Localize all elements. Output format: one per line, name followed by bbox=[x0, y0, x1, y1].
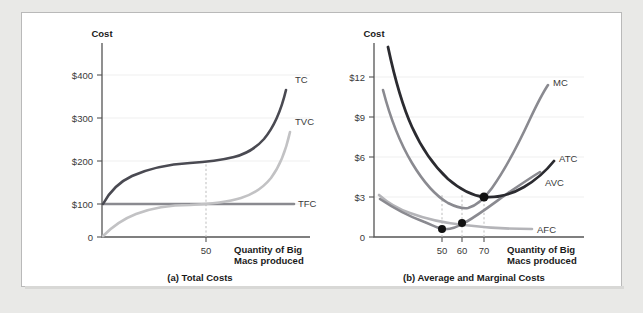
curve-label-afc: AFC bbox=[537, 224, 556, 235]
panel-average-marginal-costs: $12 $9 $6 $3 0 Cost 50 60 70 bbox=[322, 13, 623, 288]
panel-b-plot: $12 $9 $6 $3 0 Cost 50 60 70 bbox=[322, 13, 623, 288]
panel-b-ytick-6: $6 bbox=[354, 152, 365, 163]
panel-a-ytick-0: 0 bbox=[88, 232, 93, 243]
panel-b-caption: (b) Average and Marginal Costs bbox=[403, 272, 545, 283]
panel-b-ytick-12: $12 bbox=[349, 72, 365, 83]
curve-label-mc: MC bbox=[553, 77, 568, 88]
panel-a-xtick-50: 50 bbox=[201, 245, 212, 256]
panel-b-xtick-50: 50 bbox=[437, 245, 448, 256]
panel-b-xtick-70: 70 bbox=[479, 245, 490, 256]
panel-b-xtick-60: 60 bbox=[457, 245, 468, 256]
panel-a-plot: $400 $300 $200 $100 0 Cost 50 TC TVC TFC bbox=[22, 13, 322, 288]
curve-tc bbox=[103, 90, 286, 204]
panel-a-y-ticks bbox=[97, 75, 102, 237]
panel-a-axes bbox=[102, 43, 310, 237]
curve-label-tvc: TVC bbox=[295, 116, 314, 127]
curve-label-avc: AVC bbox=[545, 177, 564, 188]
panel-b-x-ticks bbox=[442, 237, 484, 242]
panel-a-gridlines bbox=[102, 75, 310, 204]
panel-total-costs: $400 $300 $200 $100 0 Cost 50 TC TVC TFC bbox=[22, 13, 322, 288]
panel-a-y-axis-title: Cost bbox=[91, 28, 113, 39]
panel-b-ytick-3: $3 bbox=[354, 192, 365, 203]
figure-frame: $400 $300 $200 $100 0 Cost 50 TC TVC TFC bbox=[21, 12, 622, 287]
panel-a-ytick-200: $200 bbox=[72, 156, 93, 167]
panel-b-ytick-9: $9 bbox=[354, 112, 365, 123]
panel-b-y-axis-title: Cost bbox=[363, 28, 385, 39]
curve-label-tc: TC bbox=[295, 74, 308, 85]
curve-tvc bbox=[103, 132, 290, 236]
panel-a-ytick-100: $100 bbox=[72, 199, 93, 210]
panel-a-ytick-400: $400 bbox=[72, 70, 93, 81]
panel-b-x-axis-name-line2: Macs produced bbox=[507, 255, 577, 266]
panel-b-ytick-0: 0 bbox=[360, 232, 365, 243]
panel-b-y-ticks bbox=[369, 77, 374, 237]
curve-label-atc: ATC bbox=[559, 153, 577, 164]
panel-a-x-axis-name-line2: Macs produced bbox=[234, 255, 304, 266]
curve-label-tfc: TFC bbox=[298, 198, 317, 209]
marker-mc-equals-avc bbox=[458, 219, 466, 227]
marker-mc-equals-atc bbox=[480, 193, 489, 202]
panel-b-x-axis-name-line1: Quantity of Big bbox=[507, 244, 575, 255]
panel-b-axes bbox=[374, 43, 584, 237]
panel-a-x-axis-name-line1: Quantity of Big bbox=[234, 244, 302, 255]
panel-a-caption: (a) Total Costs bbox=[167, 272, 232, 283]
marker-min-avc bbox=[438, 225, 446, 233]
panel-a-ytick-300: $300 bbox=[72, 113, 93, 124]
